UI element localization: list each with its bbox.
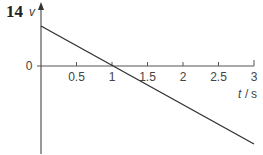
velocity-line — [41, 26, 254, 144]
x-axis-label-unit: s — [251, 87, 257, 101]
velocity-time-graph: 0.5 1 1.5 2 2.5 3 0 v t / s — [0, 0, 263, 155]
y-axis-label: v — [29, 5, 36, 19]
y-axis-arrow-icon — [38, 2, 44, 10]
x-tick-0.5: 0.5 — [68, 70, 85, 84]
y-tick-0: 0 — [26, 59, 33, 73]
x-tick-2: 2 — [180, 70, 187, 84]
x-tick-2.5: 2.5 — [210, 70, 227, 84]
x-tick-1: 1 — [109, 70, 116, 84]
x-axis-label-t: t — [238, 87, 242, 101]
x-ticks — [37, 60, 254, 66]
x-tick-3: 3 — [251, 70, 258, 84]
x-axis-label-slash: / — [245, 87, 249, 101]
